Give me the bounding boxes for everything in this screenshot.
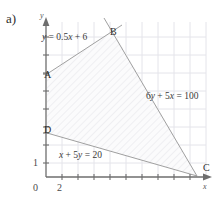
x-axis-label: x xyxy=(203,183,207,191)
equation-label-line2: 6y + 5x = 100 xyxy=(146,92,198,102)
y-axis-label: y xyxy=(40,12,44,20)
vertex-label-d: D xyxy=(44,125,51,135)
eq3-part-b: + 5 xyxy=(63,150,78,160)
y-axis-tick-label-1: 1 xyxy=(33,158,38,168)
eq2-part-e: = 100 xyxy=(174,91,198,101)
eq1-part-b: = 0.5 xyxy=(46,32,68,42)
vertex-label-a: A xyxy=(44,70,51,80)
part-label: a) xyxy=(6,12,16,25)
eq2-part-c: + 5 xyxy=(155,91,170,101)
eq1-part-d: + 6 xyxy=(72,32,87,42)
vertex-label-c: C xyxy=(203,163,210,173)
equation-label-line3: x + 5y = 20 xyxy=(59,151,102,161)
equation-label-line1: y = 0.5x + 6 xyxy=(42,33,87,43)
x-axis-arrow xyxy=(203,174,212,181)
vertex-label-b: B xyxy=(110,27,117,37)
eq3-part-d: = 20 xyxy=(82,150,102,160)
x-axis-tick-label-0: 0 xyxy=(33,183,38,193)
x-axis-tick-label-2: 2 xyxy=(57,183,62,193)
